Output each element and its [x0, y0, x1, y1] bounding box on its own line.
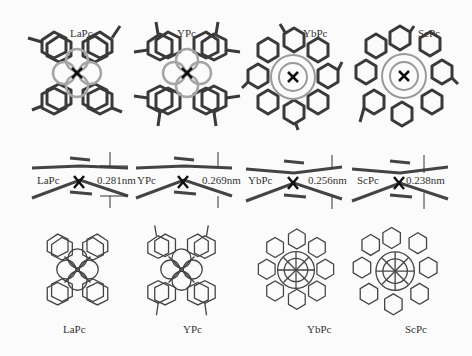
scpc-distance-label: 0.238nm — [406, 174, 445, 186]
ypc-wire-label: YPc — [183, 323, 202, 335]
ybpc-top-structure — [238, 22, 348, 132]
phthalocyanine-staggered-icon — [350, 22, 460, 132]
scpc-top-label: ScPc — [418, 27, 440, 39]
lapc-wire-structure — [30, 222, 125, 317]
scpc-side-label: ScPc — [357, 174, 379, 186]
phthalocyanine-wireframe-icon — [346, 224, 446, 320]
ypc-wire-structure — [134, 222, 229, 317]
ypc-top-label: YPc — [177, 27, 196, 39]
phthalocyanine-wireframe-icon — [250, 224, 342, 316]
phthalocyanine-staggered-icon — [238, 22, 348, 132]
scpc-wire-structure — [346, 224, 446, 320]
lapc-wire-label: LaPc — [63, 323, 86, 335]
ybpc-distance-label: 0.256nm — [308, 174, 347, 186]
lapc-distance-label: 0.281nm — [97, 174, 136, 186]
ybpc-wire-structure — [250, 224, 342, 316]
lapc-side-label: LaPc — [37, 174, 60, 186]
molecular-structure-figure: LaPc YPc — [0, 0, 472, 356]
phthalocyanine-wireframe-icon — [30, 222, 125, 317]
ybpc-top-label: YbPc — [303, 27, 327, 39]
scpc-top-structure — [350, 22, 460, 132]
lapc-top-label: LaPc — [70, 27, 93, 39]
ybpc-wire-label: YbPc — [307, 323, 331, 335]
scpc-wire-label: ScPc — [405, 323, 427, 335]
phthalocyanine-wireframe-icon — [134, 222, 229, 317]
ybpc-side-label: YbPc — [248, 174, 272, 186]
ypc-distance-label: 0.269nm — [202, 174, 241, 186]
ypc-side-label: YPc — [137, 174, 156, 186]
